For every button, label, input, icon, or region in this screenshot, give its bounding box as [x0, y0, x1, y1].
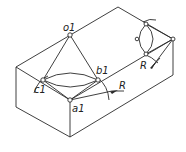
- label-a1: a1: [72, 103, 85, 114]
- top-face-ellipse-construction: [34, 33, 124, 102]
- box-outline: [16, 7, 173, 137]
- label-r-front: R: [119, 80, 126, 91]
- label-r-right: R: [140, 60, 147, 71]
- isometric-box-drawing: o1 b1 c1 a1 R R: [0, 0, 186, 152]
- label-o1: o1: [63, 22, 75, 33]
- label-b1: b1: [96, 65, 109, 76]
- label-c1: c1: [34, 84, 46, 95]
